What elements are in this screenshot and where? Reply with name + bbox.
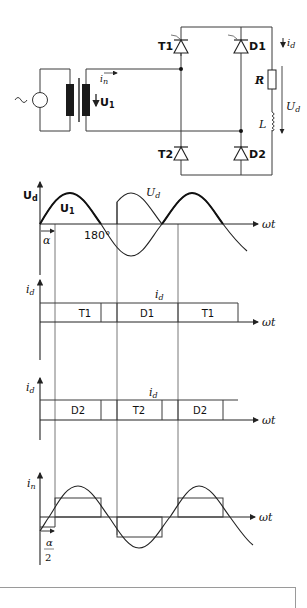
id-axis-label: id — [26, 283, 35, 297]
ud-axis-label: Ud — [23, 189, 38, 203]
svg-text:D1: D1 — [140, 308, 154, 319]
thyristor-t2: T2 — [158, 147, 188, 161]
diode-d2: D2 — [234, 147, 266, 161]
plot-id-upper: ωt id T1 D1 T1 id — [26, 280, 276, 360]
inductor-coil — [272, 112, 274, 131]
svg-text:ωt: ωt — [259, 511, 273, 524]
svg-text:D1: D1 — [249, 40, 266, 53]
plot-in: ωt in α 2 — [27, 473, 273, 565]
svg-text:T2: T2 — [132, 405, 145, 416]
bridge: T1 D1 T2 D2 — [158, 27, 300, 175]
svg-text:D2: D2 — [249, 148, 266, 161]
in-label: in — [100, 74, 108, 86]
svg-text:ωt: ωt — [262, 414, 276, 427]
svg-text:T1: T1 — [158, 40, 173, 53]
svg-text:T1: T1 — [78, 308, 91, 319]
svg-text:D2: D2 — [193, 405, 207, 416]
thyristor-t1: T1 — [158, 35, 188, 53]
plot-ud: ωt Ud α 180° U1 Ud — [23, 182, 276, 275]
guide-lines — [55, 202, 178, 535]
svg-text:180°: 180° — [84, 229, 111, 242]
svg-text:ωt: ωt — [262, 218, 276, 231]
svg-text:T2: T2 — [158, 148, 173, 161]
diode-d1: D1 — [228, 35, 266, 53]
plot-id-lower: ωt id D2 T2 D2 id — [26, 378, 276, 440]
id-label: id — [287, 37, 295, 50]
ud-curve-label: Ud — [146, 186, 160, 200]
svg-text:L: L — [258, 118, 266, 131]
svg-text:α: α — [46, 537, 53, 548]
sine-wave-icon — [15, 98, 27, 103]
svg-text:ωt: ωt — [262, 316, 276, 329]
svg-text:2: 2 — [45, 552, 51, 563]
u1-curve-label: U1 — [60, 202, 75, 216]
svg-text:T1: T1 — [201, 308, 214, 319]
in-axis-label: in — [27, 477, 36, 491]
ud-label: Ud — [286, 100, 300, 114]
u1-label: U1 — [100, 96, 115, 110]
svg-text:D2: D2 — [71, 405, 85, 416]
id-level-label: id — [155, 288, 164, 302]
ac-source — [15, 69, 70, 131]
circuit: U1 in T1 — [15, 27, 300, 175]
transformer: U1 in — [66, 69, 241, 131]
id-level-label-2: id — [149, 386, 158, 400]
svg-text:R: R — [254, 74, 264, 87]
bottom-frame — [0, 587, 296, 608]
svg-text:α: α — [43, 234, 51, 247]
id-axis-label-2: id — [26, 381, 35, 395]
